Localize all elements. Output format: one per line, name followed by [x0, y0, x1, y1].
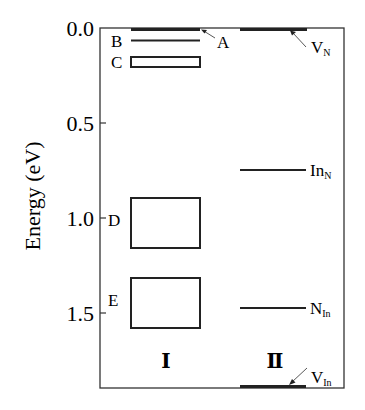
plot-frame — [100, 28, 344, 388]
arrow-V-In — [292, 368, 307, 382]
band-D — [131, 198, 200, 248]
column-label-I: Ⅰ — [161, 350, 170, 372]
label-B: B — [111, 32, 122, 51]
tick-label-0.0: 0.0 — [67, 16, 95, 41]
tick-label-0.5: 0.5 — [67, 111, 95, 136]
label-V-N: VN — [311, 38, 331, 58]
label-D: D — [108, 211, 120, 230]
tick-label-1.5: 1.5 — [67, 301, 95, 326]
label-In-N: InN — [310, 161, 331, 181]
label-V-In: VIn — [311, 368, 332, 388]
label-A: A — [217, 33, 230, 52]
band-C — [131, 57, 200, 67]
energy-level-diagram: 0.0 0.5 1.0 1.5 Energy (eV) A B C D E VN — [0, 0, 365, 410]
band-E — [131, 278, 200, 328]
column-label-II: Ⅱ — [267, 350, 284, 372]
column-II-levels: VN InN NIn VIn — [240, 30, 332, 389]
label-N-In: NIn — [310, 299, 331, 319]
arrow-V-N — [293, 33, 306, 47]
label-C: C — [111, 53, 122, 72]
tick-label-1.0: 1.0 — [67, 206, 95, 231]
column-I-levels: A B C D E — [108, 30, 230, 329]
label-E: E — [108, 291, 118, 310]
y-axis-title: Energy (eV) — [20, 142, 45, 251]
y-axis: 0.0 0.5 1.0 1.5 Energy (eV) — [20, 16, 106, 326]
